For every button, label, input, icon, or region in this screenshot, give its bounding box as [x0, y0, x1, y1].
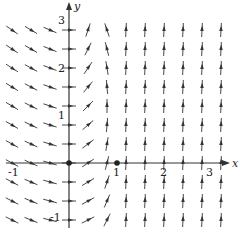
field-arrowhead-icon — [219, 83, 223, 88]
field-arrowhead-icon — [162, 102, 166, 107]
field-arrowhead-icon — [181, 178, 185, 183]
field-arrowhead-icon — [200, 178, 204, 183]
field-arrowhead-icon — [143, 45, 147, 50]
direction-field-plot: x y -1 1 2 3 -1 1 2 3 — [0, 0, 240, 232]
field-arrowhead-icon — [10, 66, 16, 70]
field-arrowhead-icon — [29, 142, 35, 146]
field-arrowhead-icon — [219, 178, 223, 183]
field-arrowhead-icon — [181, 216, 185, 221]
field-arrowhead-icon — [162, 121, 166, 126]
field-arrowhead-icon — [162, 45, 166, 50]
field-arrowhead-icon — [29, 180, 35, 184]
field-arrowhead-icon — [200, 216, 204, 221]
field-arrowhead-icon — [10, 218, 16, 222]
field-arrowhead-icon — [162, 83, 166, 88]
field-arrowhead-icon — [124, 102, 128, 107]
field-arrowhead-icon — [219, 26, 223, 31]
field-arrowhead-icon — [86, 199, 92, 203]
field-arrowhead-icon — [162, 197, 166, 202]
field-arrowhead-icon — [143, 140, 147, 145]
field-arrowhead-icon — [10, 142, 16, 146]
field-arrowhead-icon — [10, 104, 16, 108]
field-arrowhead-icon — [49, 180, 55, 183]
y-tick-neg1: -1 — [50, 211, 61, 224]
field-arrowhead-icon — [181, 45, 185, 50]
field-arrowhead-icon — [200, 102, 204, 107]
field-arrowhead-icon — [200, 45, 204, 50]
field-arrowhead-icon — [181, 102, 185, 107]
y-axis-label: y — [73, 0, 81, 13]
field-arrowhead-icon — [29, 66, 35, 70]
field-arrowhead-icon — [49, 142, 55, 145]
field-arrowhead-icon — [106, 26, 109, 32]
field-arrowhead-icon — [219, 45, 223, 50]
field-arrowhead-icon — [200, 83, 204, 88]
equilibrium-1-0 — [114, 160, 120, 166]
field-arrowhead-icon — [219, 216, 223, 221]
field-arrowhead-icon — [86, 218, 92, 222]
field-arrowhead-icon — [86, 26, 89, 32]
y-tick-2: 2 — [58, 62, 65, 75]
field-arrowhead-icon — [124, 83, 128, 88]
field-arrowhead-icon — [48, 104, 54, 107]
field-arrowhead-icon — [48, 66, 54, 70]
field-arrowhead-icon — [29, 123, 35, 127]
field-arrowhead-icon — [200, 26, 204, 31]
field-arrowhead-icon — [105, 102, 109, 107]
field-arrowhead-icon — [219, 121, 223, 126]
field-arrowhead-icon — [105, 216, 109, 222]
field-arrowhead-icon — [105, 197, 109, 203]
field-arrowhead-icon — [29, 104, 35, 108]
field-arrowhead-icon — [124, 45, 128, 50]
y-axis-arrowhead-icon — [66, 2, 72, 10]
vector-arrows — [6, 23, 223, 227]
field-arrowhead-icon — [10, 28, 15, 33]
field-arrowhead-icon — [10, 123, 16, 127]
field-arrowhead-icon — [181, 26, 185, 31]
y-tick-1: 1 — [58, 109, 65, 122]
field-arrowhead-icon — [29, 199, 35, 203]
y-tick-3: 3 — [58, 14, 65, 27]
field-arrowhead-icon — [143, 197, 147, 202]
field-arrowhead-icon — [48, 47, 54, 51]
field-arrowhead-icon — [219, 140, 223, 145]
field-arrowhead-icon — [200, 197, 204, 202]
field-arrowhead-icon — [105, 140, 109, 146]
field-arrowhead-icon — [29, 85, 35, 89]
field-arrowhead-icon — [143, 102, 147, 107]
field-arrowhead-icon — [124, 64, 128, 69]
field-arrowhead-icon — [181, 197, 185, 202]
x-tick-3: 3 — [206, 166, 213, 179]
x-tick-neg1: -1 — [8, 166, 19, 179]
field-arrowhead-icon — [10, 180, 16, 184]
field-arrowhead-icon — [105, 64, 109, 70]
field-arrowhead-icon — [219, 64, 223, 69]
field-arrowhead-icon — [124, 178, 128, 183]
field-arrowhead-icon — [143, 121, 147, 126]
x-tick-1: 1 — [113, 166, 120, 179]
field-arrowhead-icon — [48, 28, 54, 32]
direction-field-figure: x y -1 1 2 3 -1 1 2 3 — [0, 0, 240, 232]
equilibrium-origin — [66, 160, 72, 166]
field-arrowhead-icon — [181, 64, 185, 69]
field-arrowhead-icon — [162, 216, 166, 221]
field-arrowhead-icon — [219, 197, 223, 202]
field-arrowhead-icon — [86, 64, 90, 69]
field-arrowhead-icon — [86, 180, 92, 184]
field-arrowhead-icon — [143, 26, 147, 31]
field-arrowhead-icon — [105, 178, 108, 184]
field-arrowhead-icon — [10, 199, 16, 203]
field-arrowhead-icon — [49, 123, 55, 126]
field-arrowhead-icon — [29, 28, 35, 32]
field-arrowhead-icon — [124, 197, 128, 202]
field-arrowhead-icon — [48, 85, 54, 88]
field-arrowhead-icon — [181, 140, 185, 145]
field-arrowhead-icon — [49, 199, 55, 202]
field-arrowhead-icon — [219, 102, 223, 107]
field-arrowhead-icon — [143, 83, 147, 88]
field-arrowhead-icon — [86, 45, 90, 51]
field-arrowhead-icon — [10, 85, 16, 89]
field-arrowhead-icon — [162, 64, 166, 69]
field-arrowhead-icon — [162, 26, 166, 31]
field-arrowhead-icon — [181, 83, 185, 88]
